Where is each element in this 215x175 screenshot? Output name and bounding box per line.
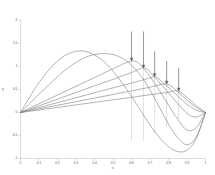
y-tick-label: -0.5 bbox=[12, 134, 18, 137]
x-tick-label: 0 bbox=[20, 162, 22, 165]
x-tick-label: 0.1 bbox=[37, 162, 41, 165]
y-tick-label: 0 bbox=[16, 111, 18, 114]
x-tick-label: 1 bbox=[205, 162, 207, 165]
x-tick-label: 0.3 bbox=[74, 162, 78, 165]
y-tick-label: 2 bbox=[16, 19, 18, 22]
x-tick-label: 0.8 bbox=[166, 162, 170, 165]
plot-area bbox=[0, 0, 215, 175]
y-tick-label: 1 bbox=[16, 65, 18, 68]
curve-1 bbox=[21, 51, 206, 152]
arrow-2 bbox=[142, 32, 145, 68]
x-axis-title: x bbox=[112, 167, 114, 170]
arrow-1-head bbox=[130, 58, 133, 61]
y-tick-label: 1.5 bbox=[13, 42, 17, 45]
arrow-3 bbox=[153, 51, 156, 76]
curve-4 bbox=[21, 68, 206, 117]
arrow-5 bbox=[177, 68, 180, 91]
arrow-4 bbox=[165, 61, 168, 84]
y-tick-label: 0.5 bbox=[13, 88, 17, 91]
y-tick-label: -1 bbox=[14, 157, 17, 160]
figure-canvas: 00.10.20.30.40.50.60.70.80.91-1-0.500.51… bbox=[0, 0, 215, 175]
x-tick-label: 0.6 bbox=[129, 162, 133, 165]
y-axis-title: y bbox=[2, 88, 4, 91]
arrow-2-head bbox=[142, 65, 145, 68]
x-tick-label: 0.4 bbox=[92, 162, 96, 165]
x-tick-label: 0.5 bbox=[111, 162, 115, 165]
curve-7 bbox=[21, 91, 206, 113]
x-tick-label: 0.7 bbox=[148, 162, 152, 165]
arrow-1 bbox=[130, 32, 133, 61]
x-tick-label: 0.2 bbox=[55, 162, 59, 165]
arrow-4-head bbox=[165, 81, 168, 84]
x-tick-label: 0.9 bbox=[185, 162, 189, 165]
arrow-5-head bbox=[177, 88, 180, 91]
